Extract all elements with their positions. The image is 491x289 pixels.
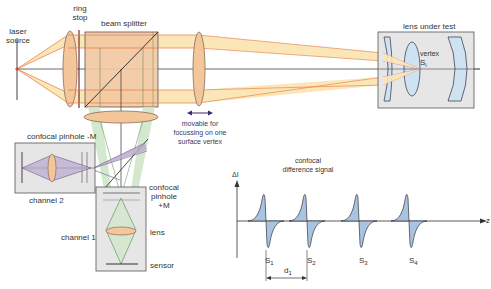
movable-double-arrow-icon <box>187 111 213 116</box>
marker-s2: S2 <box>307 256 316 268</box>
optical-diagram-svg <box>0 0 491 289</box>
movable-focus-lens <box>193 32 205 106</box>
s4-sub: 4 <box>414 260 417 266</box>
marker-s4: S4 <box>409 256 418 268</box>
lens-label: lens <box>150 228 165 237</box>
d1-label: d1 <box>284 266 292 278</box>
channel2-label: channel 2 <box>29 196 64 205</box>
channel2-box <box>15 143 95 193</box>
s3-sub: 3 <box>364 260 367 266</box>
movable-line3: surface vertex <box>168 137 232 146</box>
channel1-label: channel 1 <box>61 233 96 242</box>
beam-splitter-label: beam splitter <box>101 19 147 28</box>
imaging-lens <box>84 111 158 123</box>
d1-sub: 1 <box>288 270 291 276</box>
confocal-measurement-diagram: laser source ring stop beam splitter len… <box>0 0 491 289</box>
marker-s1: S1 <box>265 256 274 268</box>
sensor-label: sensor <box>150 261 174 270</box>
ring-stop-line1: ring <box>68 4 92 13</box>
marker-s3: S3 <box>359 256 368 268</box>
lens-under-test-label: lens under test <box>403 22 455 31</box>
ring-stop-label: ring stop <box>68 4 92 22</box>
s2-sub: 2 <box>312 260 315 266</box>
movable-lens-note: movable for focussing on one surface ver… <box>168 119 232 146</box>
channel1-lens <box>106 227 136 235</box>
collimator-lens <box>63 31 77 107</box>
channel2-lens <box>48 154 56 182</box>
laser-label-line2: source <box>3 36 33 45</box>
chart-title-line2: difference signal <box>268 165 348 174</box>
pinhole-plus-label: confocal pinhole +M <box>146 183 182 210</box>
chart-title-line1: confocal <box>268 156 348 165</box>
s1-sub: 1 <box>270 260 273 266</box>
vertex-symbol: Si <box>420 58 427 70</box>
movable-line2: focussing on one <box>168 128 232 137</box>
chart-title: confocal difference signal <box>268 156 348 174</box>
laser-source-label: laser source <box>3 27 33 45</box>
laser-label-line1: laser <box>3 27 33 36</box>
vertex-subscript: i <box>425 62 426 68</box>
ring-stop-line2: stop <box>68 13 92 22</box>
x-axis-label: z <box>486 216 490 225</box>
pinhole-plus-line2: pinhole <box>146 192 182 201</box>
pinhole-plus-line1: confocal <box>146 183 182 192</box>
pinhole-plus-line3: +M <box>146 201 182 210</box>
channel1-box <box>96 187 146 271</box>
vertex-label: vertex <box>420 49 439 58</box>
y-axis-arrow-icon <box>235 180 240 187</box>
y-axis-label: ΔI <box>232 170 239 179</box>
lens-under-test-box <box>378 32 480 108</box>
movable-line1: movable for <box>168 119 232 128</box>
pinhole-minus-label: confocal pinhole -M <box>27 132 96 141</box>
